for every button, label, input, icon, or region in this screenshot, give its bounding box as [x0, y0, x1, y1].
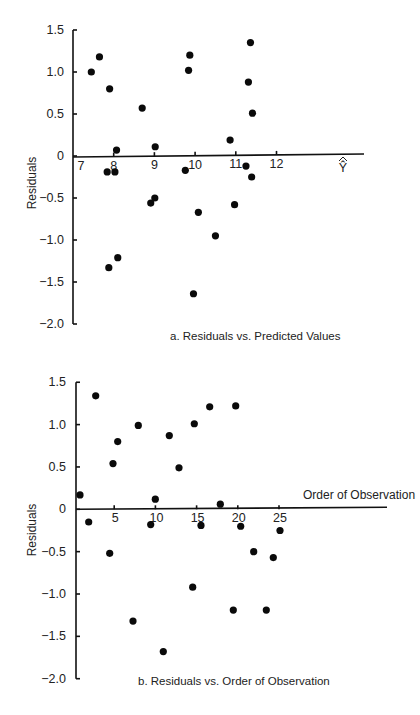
chart-a-x-tick-label: 9: [151, 158, 158, 172]
chart-b-x-tick-label: 5: [112, 511, 119, 525]
chart-a-y-tick-label: −1.0: [39, 233, 64, 247]
chart-b-y-tick-label: −0.5: [41, 545, 66, 559]
chart-b-y-tick-label: 1.5: [49, 375, 66, 389]
data-point: [248, 173, 255, 180]
chart-a-ylabel: Residuals: [25, 157, 39, 210]
data-point: [114, 438, 121, 445]
data-point: [139, 105, 146, 112]
data-point: [195, 209, 202, 216]
data-point: [245, 78, 252, 85]
data-point: [111, 168, 118, 175]
data-point: [105, 264, 112, 271]
data-point: [247, 39, 254, 46]
chart-b-x-tick-label: 25: [273, 511, 287, 525]
chart-b-y-tick-label: −2.0: [41, 672, 66, 686]
data-point: [186, 52, 193, 59]
data-point: [166, 432, 173, 439]
data-point: [191, 420, 198, 427]
data-point: [276, 527, 283, 534]
chart-a-x-tick-label: 10: [188, 158, 202, 172]
data-point: [135, 422, 142, 429]
data-point: [104, 168, 111, 175]
chart-a-y-tick-label: −2.0: [39, 317, 64, 331]
chart-residuals-vs-predicted: 1.51.00.50−0.5−1.0−1.5−2.0789101112 Resi…: [0, 0, 420, 360]
chart-a-y-tick-label: −0.5: [39, 191, 64, 205]
chart-a-x-tick-label: 12: [270, 157, 284, 171]
chart-a-x-tick-label: 7: [78, 159, 85, 173]
chart-b-x-axis: [76, 507, 387, 509]
data-point: [212, 232, 219, 239]
data-point: [206, 403, 213, 410]
chart-a-xlabel: Ŷ: [339, 160, 348, 175]
data-point: [175, 464, 182, 471]
data-point: [106, 550, 113, 557]
chart-a-y-tick-label: 1.5: [47, 23, 64, 37]
data-point: [76, 491, 83, 498]
data-point: [151, 194, 158, 201]
chart-b-y-tick-label: −1.5: [41, 629, 66, 643]
data-point: [230, 606, 237, 613]
data-point: [96, 53, 103, 60]
data-point: [147, 521, 154, 528]
chart-b-xlabel: Order of Observation: [303, 488, 415, 502]
chart-b-y-tick-label: 0.5: [49, 460, 66, 474]
data-point: [217, 501, 224, 508]
data-point: [92, 392, 99, 399]
data-point: [106, 85, 113, 92]
data-point: [182, 167, 189, 174]
data-point: [249, 110, 256, 117]
chart-b-x-tick-label: 10: [149, 511, 163, 525]
data-point: [250, 548, 257, 555]
data-point: [270, 554, 277, 561]
data-point: [227, 136, 234, 143]
data-point: [185, 67, 192, 74]
data-point: [242, 162, 249, 169]
data-point: [231, 201, 238, 208]
data-point: [160, 648, 167, 655]
data-point: [85, 518, 92, 525]
chart-b-axes: 1.51.00.50−0.5−1.0−1.5−2.0510152025: [41, 375, 387, 685]
chart-b-x-tick-label: 15: [191, 511, 205, 525]
data-point: [129, 618, 136, 625]
data-point: [197, 522, 204, 529]
data-point: [189, 584, 196, 591]
data-point: [113, 147, 120, 154]
chart-a-caption: a. Residuals vs. Predicted Values: [170, 330, 341, 342]
data-point: [152, 496, 159, 503]
chart-a-axes: 1.51.00.50−0.5−1.0−1.5−2.0789101112: [39, 23, 364, 331]
chart-b-points: [76, 392, 283, 655]
data-point: [237, 523, 244, 530]
data-point: [152, 143, 159, 150]
data-point: [190, 290, 197, 297]
data-point: [109, 460, 116, 467]
chart-a-y-tick-label: 0: [57, 149, 64, 163]
chart-b-y-tick-label: −1.0: [41, 587, 66, 601]
chart-b-x-tick-label: 20: [232, 511, 246, 525]
chart-a-x-axis: [73, 154, 364, 157]
chart-a-y-tick-label: 0.5: [47, 107, 64, 121]
chart-a-y-tick-label: −1.5: [39, 275, 64, 289]
data-point: [232, 402, 239, 409]
data-point: [88, 68, 95, 75]
chart-a-x-tick-label: 11: [229, 157, 242, 171]
data-point: [114, 254, 121, 261]
chart-b-caption: b. Residuals vs. Order of Observation: [138, 675, 330, 687]
chart-b-y-tick-label: 1.0: [49, 418, 66, 432]
chart-b-y-tick-label: 0: [59, 502, 66, 516]
chart-a-y-tick-label: 1.0: [47, 65, 64, 79]
data-point: [263, 606, 270, 613]
chart-b-ylabel: Residuals: [25, 504, 39, 557]
